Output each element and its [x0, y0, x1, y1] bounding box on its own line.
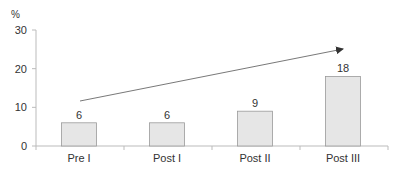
bar-value-label: 6 — [164, 109, 170, 121]
y-axis: 0102030 — [15, 24, 36, 152]
bar-pre-i — [62, 123, 97, 146]
bar-post-ii — [238, 111, 273, 146]
bar-post-i — [150, 123, 185, 146]
y-tick-label: 20 — [15, 63, 27, 75]
x-category-label: Post II — [239, 152, 270, 164]
x-category-label: Pre I — [67, 152, 90, 164]
trend-arrow — [80, 49, 343, 101]
bar-post-iii — [326, 76, 361, 146]
y-tick-label: 0 — [21, 140, 27, 152]
x-category-label: Post I — [153, 152, 181, 164]
bar-value-label: 9 — [252, 97, 258, 109]
y-tick-label: 30 — [15, 24, 27, 36]
bar-value-label: 18 — [337, 62, 349, 74]
bar-value-label: 6 — [76, 109, 82, 121]
y-axis-unit-label: % — [11, 9, 20, 20]
y-tick-label: 10 — [15, 101, 27, 113]
x-category-label: Post III — [326, 152, 360, 164]
bar-chart: % 0102030 Pre IPost IPost IIPost III 669… — [0, 0, 404, 169]
x-axis: Pre IPost IPost IIPost III — [36, 146, 388, 164]
